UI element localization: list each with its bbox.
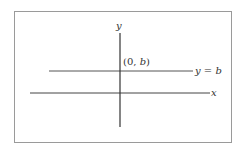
x-axis-label: x bbox=[211, 87, 217, 98]
point-label-close: ) bbox=[146, 56, 150, 67]
point-label-open: (0, bbox=[123, 56, 140, 67]
line-label: y = b bbox=[194, 65, 222, 76]
point-label: (0, b) bbox=[123, 56, 150, 67]
coordinate-diagram: y x (0, b) y = b bbox=[0, 0, 246, 153]
y-axis-label: y bbox=[115, 20, 122, 31]
